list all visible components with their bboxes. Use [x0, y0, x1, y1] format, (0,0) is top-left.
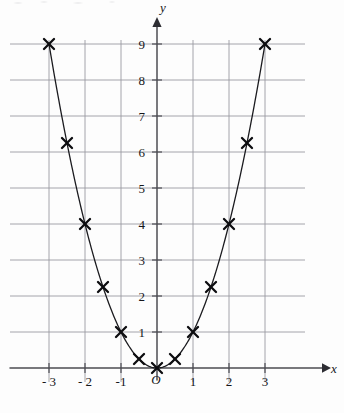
y-axis-label: y [158, 0, 166, 15]
y-axis-tick-label: 5 [139, 181, 146, 196]
x-axis-tick-label: - 3 [42, 374, 56, 389]
y-axis-tick-label: 4 [139, 217, 146, 232]
data-point-marker [242, 138, 252, 148]
x-axis-tick-label: -1 [116, 374, 127, 389]
x-axis-tick-label: 2 [226, 374, 233, 389]
axis-labels: y x O [151, 0, 337, 387]
x-axis-tick-label: - 2 [78, 374, 92, 389]
y-axis-tick-label: 6 [139, 145, 146, 160]
x-axis-tick-label: 1 [190, 374, 197, 389]
y-axis-arrow-icon [152, 17, 161, 27]
x-axis-label: x [330, 361, 337, 376]
data-point-marker [98, 282, 108, 292]
x-axis-tick-label: 3 [262, 374, 269, 389]
axes-group [10, 17, 331, 380]
x-axis-arrow-icon [322, 363, 331, 373]
y-axis-tick-label: 9 [139, 37, 146, 52]
data-point-marker [62, 138, 72, 148]
y-axis-tick-label: 2 [139, 289, 146, 304]
data-point-marker [170, 354, 180, 364]
y-axis-tick-label: 1 [139, 325, 146, 340]
parabola-plot: 123456789 - 3- 2-1123 y x O [0, 0, 344, 413]
origin-label: O [151, 372, 161, 387]
y-axis-tick-label: 8 [139, 73, 146, 88]
y-axis-tick-label: 7 [139, 109, 146, 124]
graph-figure: 123456789 - 3- 2-1123 y x O [0, 0, 344, 413]
y-axis-tick-label: 3 [139, 253, 146, 268]
data-point-marker [206, 282, 216, 292]
data-point-marker [134, 354, 144, 364]
